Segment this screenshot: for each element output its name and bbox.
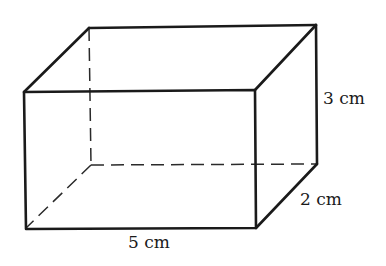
length-label: 5 cm — [128, 232, 170, 252]
visible-edges — [24, 25, 317, 229]
height-label: 3 cm — [323, 88, 365, 108]
edge-top-back — [89, 25, 316, 28]
hidden-edge-back-left-vertical — [89, 28, 91, 165]
front-face — [24, 90, 256, 229]
edge-top-right-depth — [255, 25, 316, 90]
hidden-edges — [26, 28, 316, 228]
hidden-edge-bottom-left-depth — [26, 165, 91, 228]
edge-back-right-vertical — [316, 25, 317, 164]
edge-top-left-depth — [24, 28, 89, 92]
hidden-edge-back-bottom — [91, 164, 316, 165]
depth-label: 2 cm — [300, 189, 342, 209]
rectangular-prism-diagram: 3 cm 2 cm 5 cm — [0, 0, 386, 266]
